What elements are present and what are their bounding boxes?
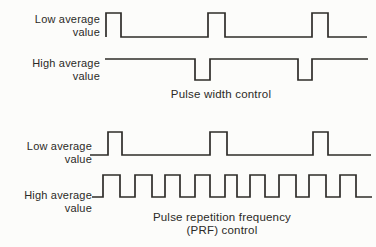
label-low-average-pulse-width: Low average value — [0, 13, 100, 39]
waveform-high-average-prf — [92, 175, 372, 197]
label-high-average-pulse-width: High average value — [0, 57, 100, 83]
caption-prf-control: Pulse repetition frequency (PRF) control — [122, 211, 322, 237]
waveform-low-average-pulse-width — [106, 13, 367, 37]
label-high-average-prf: High average value — [0, 189, 92, 215]
waveform-low-average-prf — [90, 132, 371, 155]
label-low-average-prf: Low average value — [0, 140, 92, 166]
waveform-high-average-pulse-width — [105, 59, 368, 80]
caption-pulse-width-control: Pulse width control — [121, 88, 321, 101]
pulse-control-diagram: Low average value High average value Pul… — [0, 0, 376, 247]
